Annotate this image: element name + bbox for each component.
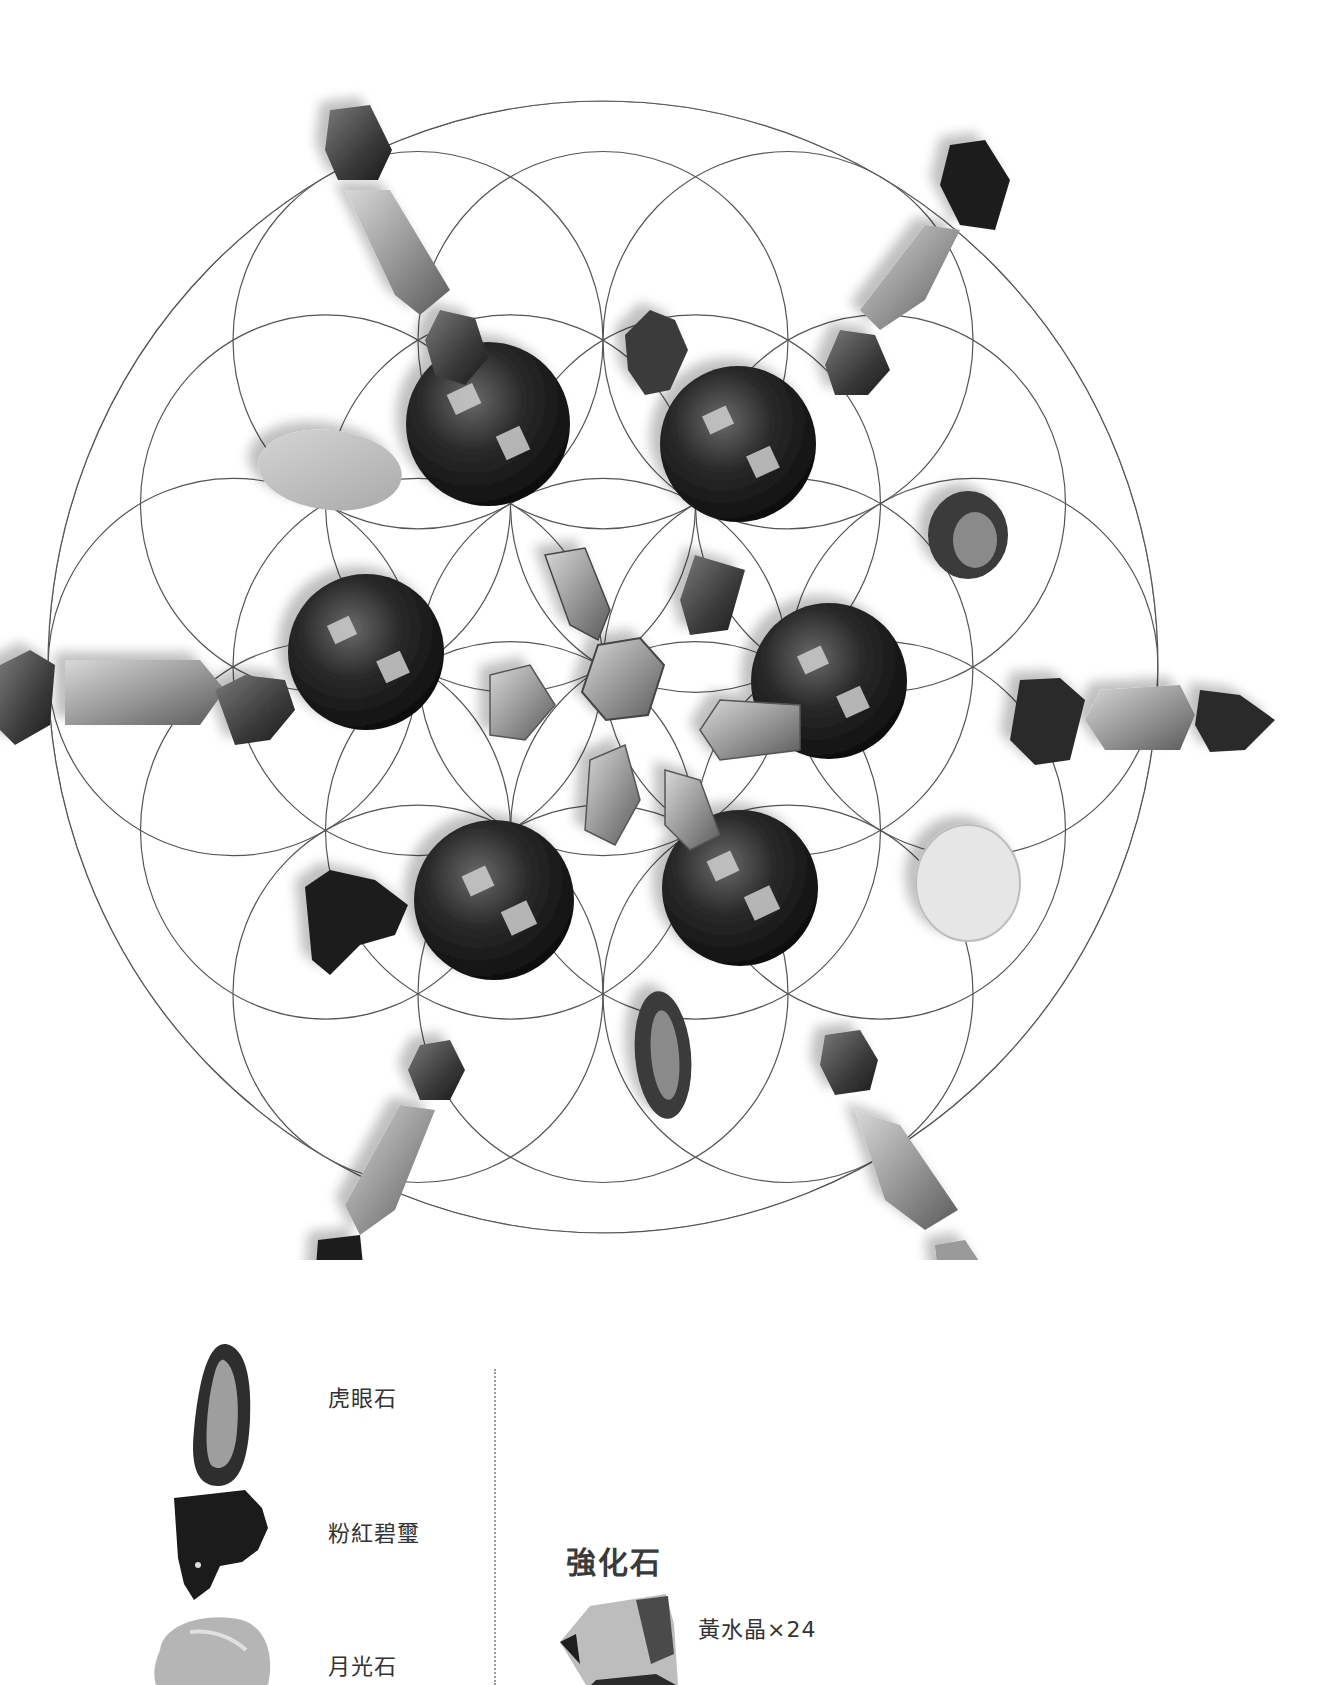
clear-quartz — [916, 825, 1020, 941]
pink-tourmaline-stone-image — [170, 1488, 280, 1603]
moonstone — [254, 423, 406, 518]
legend-divider — [494, 1369, 496, 1685]
tiger-eye-sphere — [414, 820, 574, 980]
crystal-grid-illustration — [0, 0, 1320, 1260]
legend-label-moonstone: 月光石 — [328, 1648, 397, 1680]
enhancer-stones-title: 強化石 — [566, 1538, 662, 1582]
tiger-eye-stone-image — [188, 1340, 258, 1490]
legend-label-tiger-eye: 虎眼石 — [328, 1380, 397, 1412]
tiger-eye-sphere — [406, 342, 570, 506]
moonstone-stone-image — [150, 1610, 280, 1685]
pink-tourmaline — [305, 870, 408, 975]
tiger-eye-sphere — [660, 366, 816, 522]
rough-stone-top — [625, 310, 688, 395]
citrine-point-image — [556, 1594, 681, 1685]
legend-label-pink-tourmaline: 粉紅碧璽 — [328, 1515, 420, 1547]
legend-label-citrine: 黃水晶×24 — [698, 1611, 816, 1643]
tiger-eye-sphere — [288, 574, 444, 730]
